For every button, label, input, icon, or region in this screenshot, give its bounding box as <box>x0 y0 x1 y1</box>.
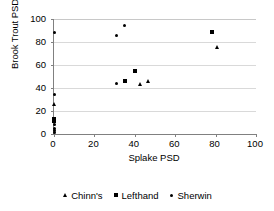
x-tick-mark <box>135 134 136 137</box>
x-axis-tick-labels: 020406080100 <box>53 139 255 151</box>
data-point <box>146 79 150 83</box>
data-point <box>115 82 118 85</box>
x-tick-mark <box>54 134 55 137</box>
data-point <box>115 34 118 37</box>
y-tick-label: 40 <box>24 83 46 93</box>
data-point <box>53 123 56 126</box>
x-tick-label: 0 <box>38 139 68 149</box>
legend-label: Chinn's <box>71 190 102 201</box>
y-tick-mark <box>51 88 54 89</box>
x-tick-mark <box>216 134 217 137</box>
chart-legend: Chinn'sLefthandSherwin <box>0 188 274 202</box>
y-tick-label: 100 <box>24 14 46 24</box>
y-tick-mark <box>51 19 54 20</box>
data-point <box>123 24 126 27</box>
x-tick-label: 20 <box>78 139 108 149</box>
dot-marker-icon <box>169 191 175 199</box>
legend-entry[interactable]: Lefthand <box>113 190 159 201</box>
x-tick-label: 40 <box>119 139 149 149</box>
y-tick-label: 60 <box>24 60 46 70</box>
data-point <box>53 31 56 34</box>
data-point <box>53 93 56 96</box>
x-tick-label: 80 <box>200 139 230 149</box>
x-tick-mark <box>94 134 95 137</box>
gridline <box>54 111 256 112</box>
data-point <box>123 79 127 83</box>
y-tick-mark <box>51 42 54 43</box>
legend-label: Sherwin <box>178 190 212 201</box>
x-tick-mark <box>175 134 176 137</box>
square-marker-icon <box>113 191 119 199</box>
legend-label: Lefthand <box>122 190 159 201</box>
data-point <box>138 82 142 86</box>
gridline <box>54 65 256 66</box>
x-tick-mark <box>256 134 257 137</box>
x-tick-label: 100 <box>240 139 270 149</box>
data-point <box>215 45 219 49</box>
y-tick-label: 80 <box>24 37 46 47</box>
x-tick-label: 60 <box>159 139 189 149</box>
data-point <box>52 102 56 106</box>
plot-area <box>53 19 256 135</box>
y-axis-title: Brook Trout PSD <box>8 0 22 94</box>
data-point <box>133 69 137 73</box>
y-axis-tick-labels: 020406080100 <box>22 0 46 211</box>
y-tick-mark <box>51 65 54 66</box>
y-tick-label: 0 <box>24 129 46 139</box>
gridline <box>54 88 256 89</box>
y-tick-label: 20 <box>24 106 46 116</box>
gridline <box>54 19 256 20</box>
scatter-chart: Brook Trout PSD 020406080100 02040608010… <box>0 0 274 211</box>
triangle-marker-icon <box>62 191 68 199</box>
data-point <box>210 30 214 34</box>
legend-entry[interactable]: Sherwin <box>169 190 212 201</box>
gridline <box>54 42 256 43</box>
x-axis-title: Splake PSD <box>53 152 255 163</box>
legend-entry[interactable]: Chinn's <box>62 190 102 201</box>
y-tick-mark <box>51 111 54 112</box>
